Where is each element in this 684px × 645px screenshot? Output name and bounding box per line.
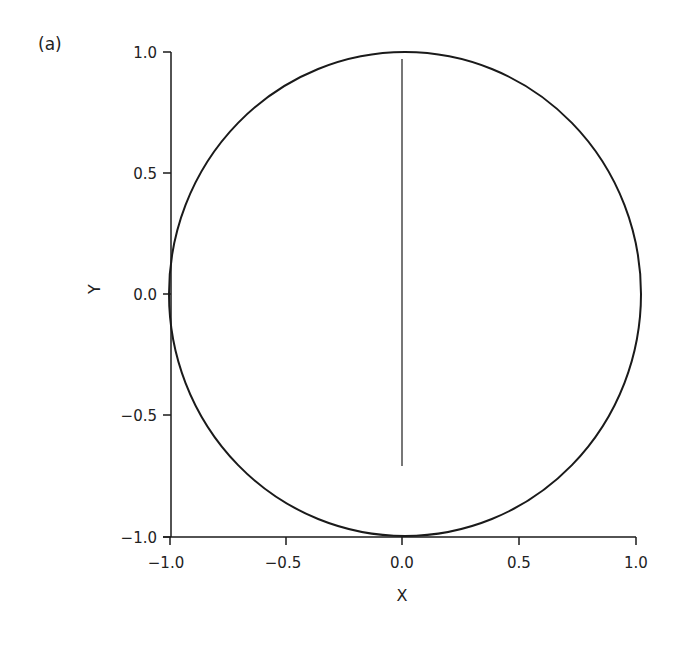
- x-tick-label: 0.0: [390, 554, 414, 572]
- chart-canvas: (a) 1.0 0.5 0.0 −0.5 −1.0 Y −1.0 −0.5 0.…: [0, 0, 684, 645]
- y-tick-label: 1.0: [133, 44, 157, 62]
- y-tick-label: −1.0: [121, 529, 157, 547]
- y-tick-label: 0.5: [133, 165, 157, 183]
- x-tick-label: −1.0: [148, 554, 184, 572]
- y-axis: 1.0 0.5 0.0 −0.5 −1.0 Y: [85, 44, 171, 547]
- x-axis: −1.0 −0.5 0.0 0.5 1.0 X: [148, 537, 648, 605]
- y-axis-title: Y: [85, 284, 104, 295]
- x-tick-label: 1.0: [624, 554, 648, 572]
- panel-label: (a): [38, 34, 62, 54]
- y-tick-label: −0.5: [121, 407, 157, 425]
- unit-circle: [169, 52, 641, 536]
- y-tick-label: 0.0: [133, 286, 157, 304]
- x-tick-label: 0.5: [507, 554, 531, 572]
- x-axis-title: X: [397, 586, 408, 605]
- x-tick-label: −0.5: [265, 554, 301, 572]
